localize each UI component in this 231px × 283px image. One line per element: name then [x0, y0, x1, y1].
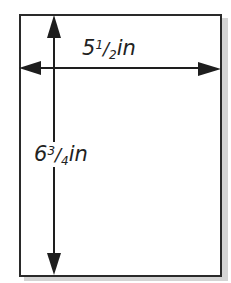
height-whole: 6: [34, 142, 47, 166]
width-whole: 5: [82, 36, 95, 60]
arrowhead-right-icon: [198, 62, 221, 76]
height-unit: in: [69, 142, 88, 166]
width-numerator: 1: [95, 38, 103, 52]
arrowhead-down-icon: [47, 253, 61, 275]
width-dimension-label: 51/2in: [82, 38, 136, 59]
arrowhead-up-icon: [47, 15, 61, 38]
diagram-canvas: 51/2in 63/4in: [0, 0, 231, 283]
width-denominator: 2: [109, 48, 117, 62]
arrowhead-left-icon: [19, 61, 41, 75]
height-dimension-label: 63/4in: [34, 142, 88, 167]
height-denominator: 4: [61, 154, 69, 168]
height-numerator: 3: [47, 144, 55, 158]
width-unit: in: [117, 36, 136, 60]
horizontal-dimension-arrow: [19, 61, 221, 76]
